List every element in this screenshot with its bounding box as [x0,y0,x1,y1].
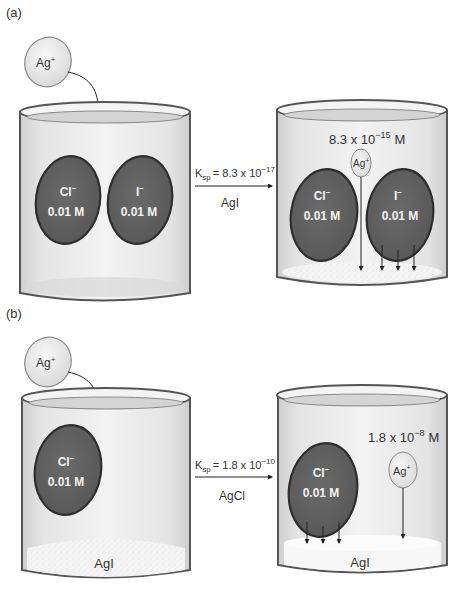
precipitation-diagram: (a) Ag+ Cl− 0.01 M I− 0.01 M [0,0,463,589]
reaction-compound-b: AgCl [219,489,245,503]
panel-b: (b) Ag+ AgI Cl− 0.01 M Ksp= 1.8 x 10−10 [6,306,447,578]
svg-text:0.01 M: 0.01 M [48,205,85,219]
ag-concentration-a: 8.3 x 10−15M [329,130,405,147]
reaction-b: Ksp= 1.8 x 10−10 AgCl [195,457,276,503]
svg-text:0.01 M: 0.01 M [303,486,340,500]
reaction-compound-a: AgI [221,196,239,210]
svg-text:Ksp= 8.3 x 10−17: Ksp= 8.3 x 10−17 [195,165,276,182]
added-ag-disc: Ag+ [18,31,78,94]
svg-text:0.01 M: 0.01 M [382,209,419,223]
ag-concentration-b: 1.8 x 10−8M [368,428,439,445]
ag-disc-a-after: Ag+ [351,149,371,177]
ag-charge: + [51,55,56,64]
ag-disc-b-after: Ag+ [389,452,417,488]
panel-b-label: (b) [6,306,22,321]
svg-text:0.01 M: 0.01 M [48,475,85,489]
reaction-a: Ksp= 8.3 x 10−17 AgI [195,165,276,210]
svg-text:Ksp= 1.8 x 10−10: Ksp= 1.8 x 10−10 [195,457,276,474]
added-ag-disc-b: Ag+ [18,331,78,394]
panel-a-label: (a) [6,5,22,20]
svg-text:0.01 M: 0.01 M [121,205,158,219]
precipitate-label-b-after: AgI [350,555,370,570]
panel-a: (a) Ag+ Cl− 0.01 M I− 0.01 M [6,5,447,301]
ag-symbol: Ag [36,56,51,70]
precipitate-label-b-before: AgI [94,556,114,571]
svg-text:0.01 M: 0.01 M [304,209,341,223]
